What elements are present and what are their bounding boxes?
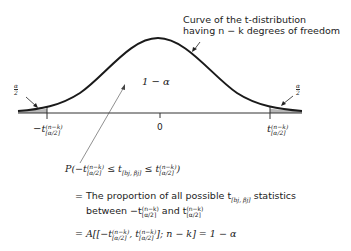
proportion-line: = The proportion of all possible t[bj, β… <box>75 190 296 201</box>
eq-line4-comma: , t <box>129 228 139 239</box>
eq-line2b: statistics <box>251 190 296 201</box>
between-line: between −t(n−k)[α/2] and t(n−k)[α/2] <box>86 205 203 218</box>
curve-label-line1: Curve of the t-distribution <box>183 14 340 25</box>
eq-le1: ≤ t <box>104 163 122 174</box>
probability-pointer <box>80 87 124 163</box>
eq-sub: [α/2] <box>112 235 129 241</box>
alpha-den: 2 <box>14 90 18 96</box>
eq-line4b: ]; n − k] = 1 − α <box>156 228 236 239</box>
eq-sub: [α/2] <box>186 212 203 218</box>
eq-sub: [α/2] <box>139 235 156 241</box>
eq-neg-t: −t <box>75 163 87 174</box>
eq-close: ) <box>177 163 181 174</box>
eq-line3-mid: and t <box>159 205 187 216</box>
eq-line2-sub: [bj, βj] <box>231 196 251 203</box>
right-tail-label: α 2 <box>296 83 300 96</box>
cutoff-prefix: −t <box>33 123 45 134</box>
axis-zero-label: 0 <box>157 122 163 132</box>
eq-line3a: between −t <box>86 205 142 216</box>
eq-sub: [α/2] <box>159 170 176 176</box>
right-cutoff-label: t(n−k)[α/2] <box>267 123 288 136</box>
eq-p: P( <box>65 163 75 174</box>
curve-label: Curve of the t-distribution having n − k… <box>183 14 340 36</box>
eq-le2: ≤ t <box>141 163 159 174</box>
arrowhead-icon <box>121 84 125 90</box>
cutoff-sub: [α/2] <box>45 130 62 136</box>
eq-stat-sub: [bj, βj] <box>122 169 142 176</box>
eq-sub: [α/2] <box>87 170 104 176</box>
center-area-label: 1 − α <box>142 76 170 87</box>
cutoff-sub: [α/2] <box>271 130 288 136</box>
probability-equation: P(−t(n−k)[α/2] ≤ t[bj, βj] ≤ t(n−k)[α/2]… <box>65 163 180 176</box>
eq-sub: [α/2] <box>142 212 159 218</box>
alpha-den: 2 <box>296 90 300 96</box>
left-cutoff-label: −t(n−k)[α/2] <box>33 123 63 136</box>
eq-line2a: = The proportion of all possible t <box>75 190 231 201</box>
arrowhead-icon <box>192 47 197 52</box>
area-equation: = A[[−t(n−k)[α/2], t(n−k)[α/2]]; n − k] … <box>75 228 236 241</box>
curve-label-line2: having n − k degrees of freedom <box>183 25 340 36</box>
t-curve <box>18 38 302 111</box>
left-tail-label: α 2 <box>14 83 18 96</box>
eq-line4a: = A[[−t <box>75 228 112 239</box>
